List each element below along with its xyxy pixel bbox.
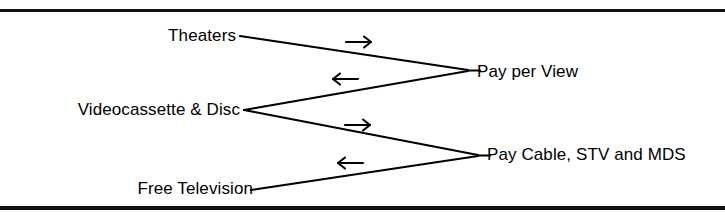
node-label-pay-per-view: Pay per View	[477, 62, 578, 82]
arrow-right-icon-videocassette-lower	[345, 120, 370, 131]
line-free-television-to-pay-cable	[251, 156, 478, 190]
line-videocassette-to-pay-cable	[244, 110, 478, 155]
line-videocassette-to-pay-per-view	[244, 71, 468, 110]
node-label-videocassette: Videocassette & Disc	[78, 100, 240, 120]
arrow-right-icon-theaters	[346, 37, 371, 48]
node-label-pay-cable-stv-mds: Pay Cable, STV and MDS	[487, 145, 686, 165]
figure-canvas: Theaters Videocassette & Disc Free Telev…	[0, 0, 725, 218]
arrow-left-icon-videocassette-upper	[333, 74, 358, 85]
node-label-free-television: Free Television	[137, 179, 253, 199]
node-label-theaters: Theaters	[168, 26, 236, 46]
arrow-left-icon-free-television	[338, 158, 363, 169]
